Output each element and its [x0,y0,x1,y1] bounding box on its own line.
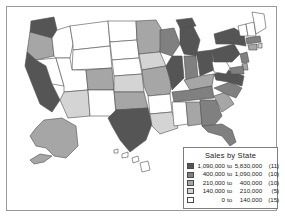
legend-range-high: 210,000 [234,187,262,195]
legend-range-separator: to [225,179,234,187]
legend-state-count: (11) [262,162,279,170]
state-ND[interactable] [108,21,137,42]
state-AK-tail[interactable] [30,154,52,164]
legend-range-separator: to [225,196,234,204]
legend-state-count: (10) [262,170,279,178]
legend-swatch [187,197,194,203]
state-HI1[interactable] [114,149,118,153]
state-AL[interactable] [186,102,202,126]
legend-swatch [187,172,194,178]
state-WI[interactable] [160,28,180,56]
state-MT[interactable] [70,21,110,50]
state-TX[interactable] [108,108,152,152]
state-NE[interactable] [112,58,142,76]
state-MI[interactable] [180,24,200,56]
state-OK[interactable] [114,92,148,110]
legend-state-count: (15) [262,196,279,204]
map-figure: Sales by State 1,090,000to5,830,000(11)4… [0,0,285,220]
legend-swatch [187,188,194,194]
legend-range-high: 400,000 [234,179,262,187]
state-PA[interactable] [212,44,240,62]
state-MA[interactable] [246,36,261,44]
state-AR[interactable] [148,94,172,114]
state-CO[interactable] [86,68,114,90]
state-AK[interactable] [30,118,78,158]
state-WY[interactable] [72,46,112,70]
state-HI2[interactable] [122,152,128,158]
state-MN[interactable] [136,20,162,54]
legend-row[interactable]: 0to140,000(15) [187,196,274,204]
legend-range-low: 400,000 [197,170,225,178]
state-KS[interactable] [114,74,144,92]
legend: Sales by State 1,090,000to5,830,000(11)4… [183,147,278,209]
legend-range-separator: to [225,170,234,178]
legend-row[interactable]: 140,000to210,000(5) [187,187,274,195]
legend-swatch [187,163,194,169]
state-CT[interactable] [248,44,257,50]
state-RI[interactable] [258,43,262,48]
legend-range-low: 1,090,000 [197,162,225,170]
legend-range-separator: to [225,187,234,195]
legend-range-separator: to [225,162,234,170]
legend-swatch [187,180,194,186]
legend-range-high: 5,830,000 [234,162,262,170]
state-MS[interactable] [172,102,188,126]
legend-state-count: (10) [262,179,279,187]
state-NM[interactable] [88,90,116,116]
state-HI4[interactable] [140,161,150,172]
legend-row[interactable]: 1,090,000to5,830,000(11) [187,162,274,170]
legend-range-high: 1,090,000 [234,170,262,178]
legend-state-count: (5) [262,187,279,195]
legend-rows: 1,090,000to5,830,000(11)400,000to1,090,0… [187,162,274,204]
legend-range-low: 0 [197,196,225,204]
legend-range-low: 140,000 [197,187,225,195]
state-AZ[interactable] [60,90,90,118]
legend-row[interactable]: 210,000to400,000(10) [187,179,274,187]
legend-row[interactable]: 400,000to1,090,000(10) [187,170,274,178]
state-SD[interactable] [110,40,139,60]
state-FL[interactable] [202,124,236,146]
state-HI3[interactable] [132,156,139,163]
legend-title: Sales by State [187,151,274,160]
state-MD[interactable] [230,66,244,74]
state-OH[interactable] [196,50,214,76]
state-MI2[interactable] [176,18,196,28]
state-IN[interactable] [184,56,198,80]
legend-range-low: 210,000 [197,179,225,187]
legend-range-high: 140,000 [234,196,262,204]
state-NJ[interactable] [240,52,249,63]
